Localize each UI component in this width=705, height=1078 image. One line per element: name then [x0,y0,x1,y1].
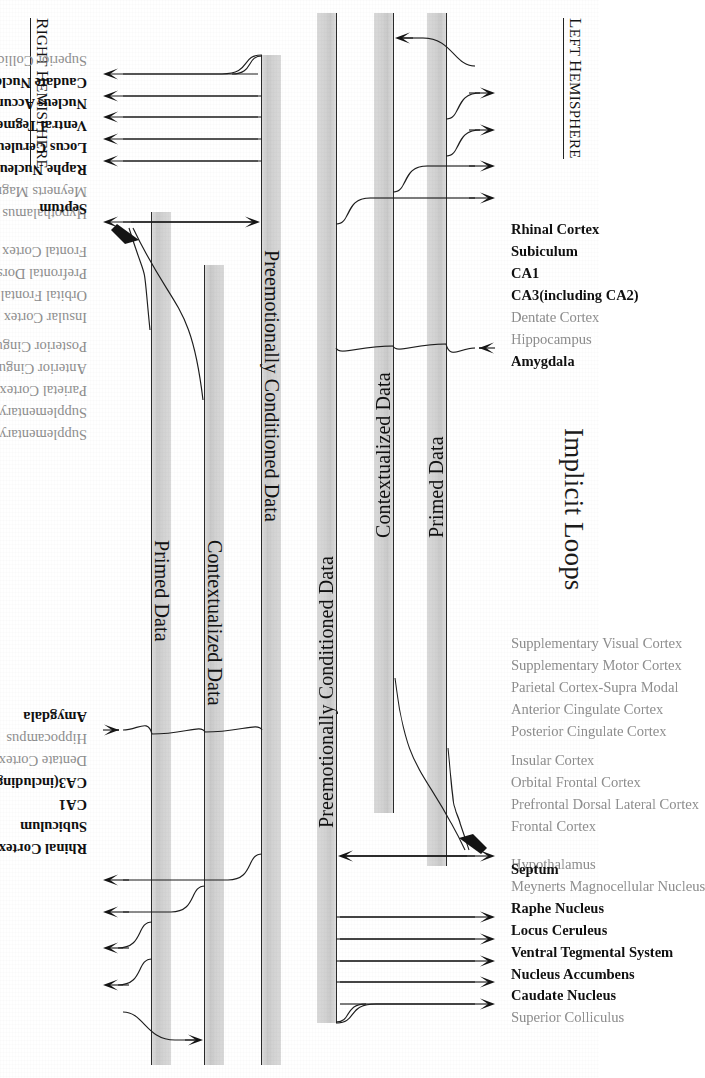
left-label-supplementary-motor-cortex: Supplementary Motor Cortex [511,658,682,672]
left-label-superior-colliculus: Superior Colliculus [511,1010,624,1024]
right-arrow-rhinal-feedback [185,1034,203,1045]
right-arrow-sub-1 [103,90,258,101]
left-arrow-rhinal-feedback [395,32,413,43]
left-label-amygdala: Amygdala [511,354,575,368]
right-label-insular-cortex: Insular Cortex [4,311,87,325]
right-arrow-septum-up [131,216,260,227]
right-label-supplementary-motor-cortex: Supplementary Motor Cortex [0,406,87,420]
left-arrow-limbic-0 [469,192,495,203]
left-label-insular-cortex: Insular Cortex [511,753,594,767]
left-arrow-limbic-1 [469,160,495,171]
right-arrow-septum-fan [111,224,139,244]
left-label-orbital-frontal-cortex: Orbital Frontal Cortex [511,775,641,789]
right-label-frontal-cortex: Frontal Cortex [2,245,87,259]
right-label-ca1: CA1 [59,798,87,812]
left-label-ventral-tegmental-system: Ventral Tegmental System [511,945,673,959]
right-arrow-sub-2 [103,111,258,122]
right-label-septum: Septum [39,202,87,216]
left-label-hippocampus: Hippocampus [511,332,592,346]
right-label-supplementary-visual-cortex: Supplementary Visual Cortex [0,428,87,442]
left-label-anterior-cingulate-cortex: Anterior Cingulate Cortex [511,702,663,716]
right-label-posterior-cingulate-cortex: Posterior Cingulate Cortex [0,340,87,354]
left-label-subiculum: Subiculum [511,244,578,258]
right-arrow-limbic-2 [103,942,129,953]
left-arrow-sub-2 [340,955,495,966]
right-hemisphere-panel: Preemotionally Conditioned DataContextua… [0,0,299,1078]
left-connector-wires [299,0,599,1078]
left-arrow-limbic-3 [469,87,495,98]
right-label-ca3(including-ca2): CA3(including CA2) [0,776,87,790]
left-label-septum: Septum [511,862,559,876]
left-label-supplementary-visual-cortex: Supplementary Visual Cortex [511,636,682,650]
right-label-rhinal-cortex: Rhinal Cortex [0,842,87,856]
right-hemisphere-diagram: Preemotionally Conditioned DataContextua… [0,0,299,1078]
right-arrow-sub-3 [103,133,258,144]
left-hemisphere-diagram: Preemotionally Conditioned DataContextua… [299,0,599,1078]
right-label-caudate-nucleus: Caudate Nucleus [0,76,87,90]
right-arrow-limbic-1 [103,906,129,917]
right-arrow-limbic-0 [103,874,129,885]
left-label-ca3(including-ca2): CA3(including CA2) [511,288,639,302]
right-label-subiculum: Subiculum [20,820,87,834]
right-label-meynerts-magnocellular-nucleus: Meynerts Magnocellular Nucleus [0,185,87,199]
right-label-orbital-frontal-cortex: Orbital Frontal Cortex [0,289,87,303]
left-label-dentate-cortex: Dentate Cortex [511,310,599,324]
left-label-caudate-nucleus: Caudate Nucleus [511,988,616,1002]
right-label-ventral-tegmental-system: Ventral Tegmental System [0,119,87,133]
right-label-dentate-cortex: Dentate Cortex [0,754,87,768]
right-label-parietal-cortex-supra-modal: Parietal Cortex-Supra Modal [0,384,87,398]
left-label-nucleus-accumbens: Nucleus Accumbens [511,967,635,981]
left-arrow-sub-4 [340,911,495,922]
left-label-parietal-cortex-supra-modal: Parietal Cortex-Supra Modal [511,680,679,694]
right-arrow-limbic-3 [103,979,129,990]
right-label-prefrontal-dorsal-lateral-cortex: Prefrontal Dorsal Lateral Cortex [0,267,87,281]
right-label-amygdala: Amygdala [23,710,87,724]
left-label-raphe-nucleus: Raphe Nucleus [511,901,604,915]
right-arrow-sub-4 [103,155,258,166]
right-label-locus-ceruleus: Locus Ceruleus [0,141,87,155]
left-label-locus-ceruleus: Locus Ceruleus [511,923,607,937]
left-hemisphere-panel: Preemotionally Conditioned DataContextua… [299,0,599,1078]
left-arrow-sub-3 [340,933,495,944]
left-arrow-septum-fan [459,834,487,854]
right-label-hippocampus: Hippocampus [6,732,87,746]
left-arrow-sub-1 [340,976,495,987]
left-arrow-limbic-2 [469,124,495,135]
right-label-anterior-cingulate-cortex: Anterior Cingulate Cortex [0,362,87,376]
left-label-rhinal-cortex: Rhinal Cortex [511,222,599,236]
right-label-raphe-nucleus: Raphe Nucleus [0,163,87,177]
left-label-posterior-cingulate-cortex: Posterior Cingulate Cortex [511,724,666,738]
left-label-frontal-cortex: Frontal Cortex [511,819,596,833]
left-arrow-septum-up [338,850,467,861]
left-label-meynerts-magnocellular-nucleus: Meynerts Magnocellular Nucleus [511,879,705,893]
left-label-ca1: CA1 [511,266,539,280]
left-label-prefrontal-dorsal-lateral-cortex: Prefrontal Dorsal Lateral Cortex [511,797,699,811]
right-label-superior-colliculus: Superior Colliculus [0,54,87,68]
right-label-nucleus-accumbens: Nucleus Accumbens [0,97,87,111]
